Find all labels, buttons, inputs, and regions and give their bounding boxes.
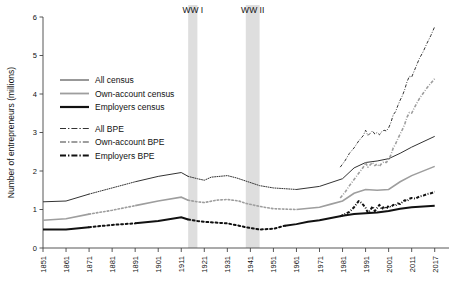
x-tick-label: 1981	[339, 256, 348, 273]
legend-label-census-0: All census	[95, 75, 134, 85]
x-tick-label: 1931	[223, 256, 232, 273]
series-all-bpe	[340, 27, 434, 168]
legend-label-census-1: Own-account census	[95, 89, 174, 99]
series-segment	[340, 79, 434, 198]
series-segment	[135, 217, 188, 223]
x-tick-label: 1951	[269, 256, 278, 273]
legend-label-bpe-1: Own-account BPE	[95, 137, 165, 147]
war-band-label-1: WW I	[182, 5, 203, 15]
x-tick-label: 1911	[177, 256, 186, 272]
series-segment	[296, 166, 434, 209]
y-tick-label: 3	[33, 128, 37, 137]
series-segment	[89, 206, 135, 214]
series-segment	[43, 227, 89, 229]
entrepreneurs-line-chart: WW IWW II0123456185118611871188118911901…	[0, 0, 460, 287]
legend-label-census-2: Employers census	[95, 102, 164, 112]
series-segment	[135, 197, 188, 205]
series-segment	[89, 223, 135, 227]
y-tick-label: 0	[33, 244, 37, 253]
series-segment	[188, 220, 285, 230]
legend-label-bpe-0: All BPE	[95, 124, 124, 134]
y-tick-label: 5	[33, 51, 37, 60]
series-employers-bpe	[340, 192, 434, 217]
series-segment	[135, 173, 188, 182]
series-segment	[340, 27, 434, 168]
legend: All censusOwn-account censusEmployers ce…	[60, 75, 174, 161]
x-tick-label: 1861	[62, 256, 71, 273]
x-tick-label: 1991	[362, 256, 371, 273]
y-tick-label: 1	[33, 205, 37, 214]
x-tick-label: 1871	[85, 256, 94, 273]
war-band-2	[246, 5, 260, 248]
x-tick-label: 1881	[108, 256, 117, 273]
war-band-1	[188, 5, 197, 248]
y-axis-title: Number of entrepreneurs (millions)	[6, 67, 16, 198]
x-tick-label: 1851	[39, 256, 48, 273]
x-tick-label: 2011	[408, 256, 417, 272]
series-segment	[188, 199, 296, 209]
y-tick-label: 4	[33, 90, 37, 99]
war-band-label-2: WW II	[241, 5, 264, 15]
x-tick-label: 1971	[316, 256, 325, 273]
x-tick-label: 1901	[154, 256, 163, 273]
series-segment	[89, 182, 135, 194]
x-tick-label: 2001	[385, 256, 394, 273]
series-own-account-bpe	[340, 79, 434, 198]
legend-label-bpe-2: Employers BPE	[95, 151, 155, 161]
x-tick-label: 1941	[246, 256, 255, 273]
x-tick-label: 1921	[200, 256, 209, 273]
x-tick-label: 1891	[131, 256, 140, 273]
y-tick-label: 6	[33, 13, 37, 22]
series-segment	[188, 176, 296, 190]
series-segment	[43, 194, 89, 202]
x-tick-label: 2017	[431, 256, 440, 273]
series-segment	[340, 192, 434, 217]
war-bands: WW IWW II	[182, 5, 264, 248]
chart-container: WW IWW II0123456185118611871188118911901…	[0, 0, 460, 287]
y-tick-label: 2	[33, 167, 37, 176]
series-employers-census	[43, 206, 435, 230]
series-segment	[43, 214, 89, 220]
x-tick-label: 1961	[292, 256, 301, 273]
